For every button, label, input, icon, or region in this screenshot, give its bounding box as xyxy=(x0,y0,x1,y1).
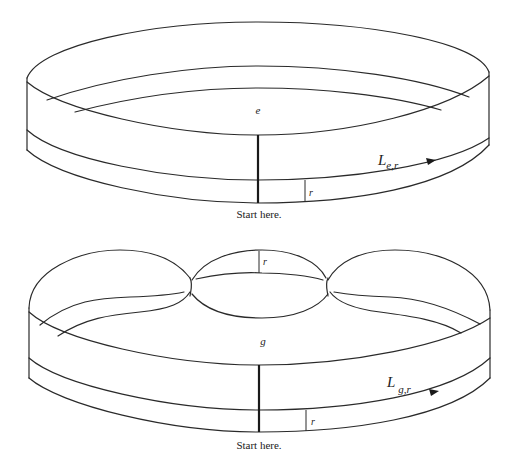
middle-lobe-bottom xyxy=(192,294,328,318)
start-label-g: Start here. xyxy=(236,439,281,451)
lobe-radius-label-g: r xyxy=(263,256,267,267)
right-lobe-outer xyxy=(328,250,490,310)
arrow-icon xyxy=(426,158,436,165)
outer-rim-back xyxy=(27,22,489,78)
middle-lobe-chord xyxy=(196,273,323,280)
radius-label-e: r xyxy=(309,187,313,198)
left-lobe-outer xyxy=(29,250,190,308)
arrow-icon-g xyxy=(429,389,439,396)
start-label-e: Start here. xyxy=(236,208,281,220)
left-junction xyxy=(190,278,192,296)
path-label-e: Le,r xyxy=(377,152,399,171)
right-lobe-inner-lower xyxy=(330,292,461,333)
center-label-e: e xyxy=(256,104,261,116)
inner-rim-back xyxy=(47,66,469,100)
radius-label-g: r xyxy=(311,416,315,427)
diagram-canvas: e Le,r r Start here. xyxy=(0,0,514,469)
right-lobe-inner-upper xyxy=(334,292,480,324)
path-label-g: Lg,r xyxy=(386,374,412,395)
right-junction xyxy=(326,278,328,296)
center-label-g: g xyxy=(260,335,266,347)
left-lobe-inner-lower xyxy=(58,292,190,336)
